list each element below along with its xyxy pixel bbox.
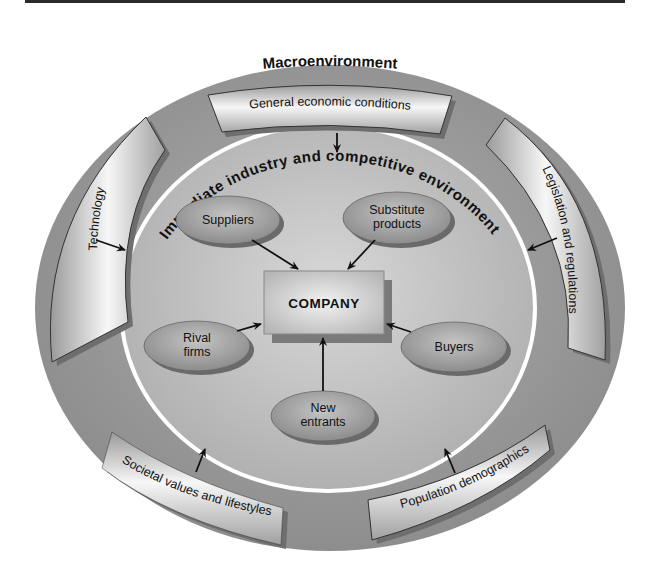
force-entrants-label-line1: New [310, 401, 336, 415]
force-buyers-label: Buyers [435, 340, 474, 354]
force-suppliers-label: Suppliers [202, 213, 254, 227]
force-rivals-label-line2: firms [183, 345, 210, 359]
macroenvironment-title: Macroenvironment [262, 52, 398, 72]
force-substitutes-label-line2: products [373, 217, 421, 231]
force-entrants-label-line2: entrants [300, 415, 345, 429]
force-substitutes-label-line1: Substitute [369, 203, 425, 217]
force-rivals-label-line1: Rival [183, 331, 211, 345]
company-box: COMPANY [264, 271, 392, 343]
company-label: COMPANY [288, 296, 360, 311]
environment-diagram: Macroenvironment Immediate industry and … [0, 0, 654, 580]
